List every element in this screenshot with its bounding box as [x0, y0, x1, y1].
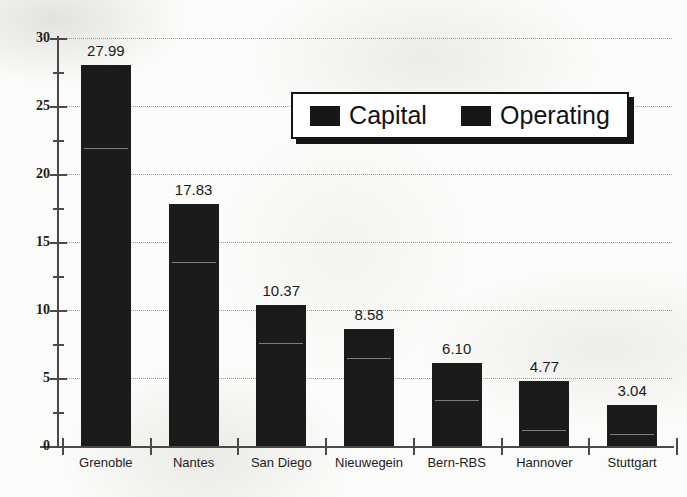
bar-value-label: 8.58 — [354, 306, 383, 323]
y-tick-major — [50, 242, 67, 244]
gridline — [58, 242, 672, 243]
y-tick-minor — [53, 344, 64, 346]
y-axis-labels-group: 051015202530 — [0, 0, 50, 497]
bar-segment-divider — [259, 343, 303, 344]
bar-stuttgart[interactable] — [607, 405, 657, 446]
x-tick — [325, 438, 327, 455]
x-axis-category-label: Stuttgart — [608, 455, 657, 470]
bar-san-diego[interactable] — [256, 305, 306, 446]
bar-bern-rbs[interactable] — [432, 363, 482, 446]
x-axis-category-label: Bern-RBS — [427, 455, 486, 470]
gridline — [58, 174, 672, 175]
gridline — [58, 38, 672, 39]
x-tick — [62, 438, 64, 455]
bar-segment-divider — [522, 430, 566, 431]
x-axis-line — [40, 446, 674, 448]
y-axis-tick-label: 30 — [4, 30, 50, 46]
bar-grenoble[interactable] — [81, 65, 131, 446]
y-axis-tick-label: 15 — [4, 234, 50, 250]
y-tick-major — [50, 446, 67, 448]
stacked-bar-chart: 051015202530 GrenobleNantesSan DiegoNieu… — [0, 0, 687, 497]
y-tick-major — [50, 378, 67, 380]
legend-swatch-operating — [461, 106, 491, 126]
y-tick-minor — [53, 140, 64, 142]
y-axis-tick-label: 25 — [4, 98, 50, 114]
x-tick — [150, 438, 152, 455]
legend-label-capital: Capital — [349, 103, 427, 128]
y-tick-minor — [53, 208, 64, 210]
bar-nantes[interactable] — [169, 204, 219, 446]
x-axis-category-label: Hannover — [516, 455, 572, 470]
y-tick-major — [50, 106, 67, 108]
y-tick-minor — [53, 412, 64, 414]
bar-nieuwegein[interactable] — [344, 329, 394, 446]
bar-value-label: 6.10 — [442, 340, 471, 357]
y-tick-major — [50, 174, 67, 176]
bar-segment-divider — [172, 262, 216, 263]
y-axis-tick-label: 20 — [4, 166, 50, 182]
y-axis-tick-label: 10 — [4, 302, 50, 318]
bar-segment-divider — [610, 434, 654, 435]
bar-value-label: 10.37 — [263, 282, 301, 299]
bar-value-label: 3.04 — [618, 382, 647, 399]
x-axis-category-label: Nieuwegein — [335, 455, 403, 470]
chart-legend: Capital Operating — [291, 92, 629, 139]
bar-value-label: 27.99 — [87, 42, 125, 59]
bar-value-label: 4.77 — [530, 358, 559, 375]
y-axis-tick-label: 5 — [4, 370, 50, 386]
y-tick-minor — [53, 276, 64, 278]
legend-entry-capital[interactable]: Capital — [310, 103, 427, 128]
y-tick-major — [50, 310, 67, 312]
bar-segment-divider — [84, 148, 128, 149]
x-axis-category-label: Grenoble — [79, 455, 132, 470]
x-tick — [588, 438, 590, 455]
bar-hannover[interactable] — [519, 381, 569, 446]
bar-segment-divider — [435, 400, 479, 401]
legend-label-operating: Operating — [500, 103, 610, 128]
legend-swatch-capital — [310, 106, 340, 126]
y-tick-minor — [53, 72, 64, 74]
x-axis-category-label: Nantes — [173, 455, 214, 470]
x-tick — [676, 438, 678, 455]
y-axis-tick-label: 0 — [4, 438, 50, 454]
x-axis-category-label: San Diego — [251, 455, 312, 470]
legend-entry-operating[interactable]: Operating — [461, 103, 610, 128]
x-tick — [501, 438, 503, 455]
y-tick-major — [50, 38, 67, 40]
x-tick — [413, 438, 415, 455]
bar-segment-divider — [347, 358, 391, 359]
x-tick — [237, 438, 239, 455]
bar-value-label: 17.83 — [175, 181, 213, 198]
